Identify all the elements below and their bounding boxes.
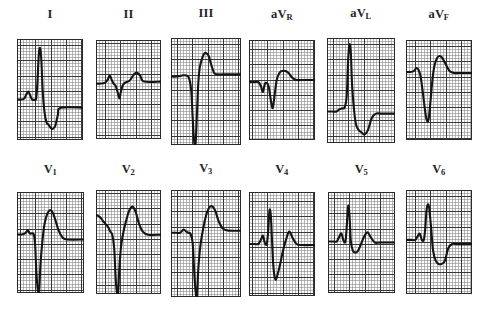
lead-label-v1: V1 — [3, 163, 98, 177]
lead-label-main: aV — [271, 7, 287, 21]
lead-label-main: V — [432, 162, 441, 176]
lead-panel-v5: V5 — [0, 0, 483, 319]
ecg-trace-i — [17, 48, 83, 129]
lead-grid-v4 — [249, 192, 315, 296]
lead-label-main: II — [123, 7, 133, 21]
lead-label-subscript: 4 — [284, 167, 288, 177]
lead-label-main: I — [47, 7, 52, 21]
lead-label-ii: II — [82, 8, 175, 21]
lead-label-i: I — [3, 8, 97, 21]
lead-label-main: V — [44, 162, 53, 176]
ecg-trace-v1 — [17, 210, 84, 293]
lead-grid-v5 — [328, 192, 395, 293]
lead-label-main: aV — [428, 7, 444, 21]
ecg-trace-v3 — [171, 206, 241, 297]
lead-grid-avf — [406, 40, 472, 140]
lead-label-main: aV — [350, 6, 366, 20]
lead-grid-i — [17, 39, 83, 140]
lead-label-subscript: 5 — [364, 167, 368, 177]
lead-label-v2: V2 — [82, 163, 175, 177]
ecg-trace-avr — [249, 71, 315, 108]
lead-label-subscript: 3 — [208, 166, 212, 176]
lead-label-subscript: F — [444, 12, 449, 22]
lead-panel-v2: V2 — [0, 0, 483, 319]
ecg-trace-ii — [96, 73, 161, 99]
lead-label-iii: III — [157, 7, 255, 20]
lead-label-avf: aVF — [392, 8, 483, 22]
lead-label-subscript: 2 — [131, 167, 135, 177]
lead-label-avl: aVL — [313, 7, 409, 21]
lead-label-subscript: L — [366, 11, 372, 21]
lead-label-avr: aVR — [235, 8, 329, 22]
lead-panel-v3: V3 — [0, 0, 483, 319]
ecg-trace-v6 — [406, 204, 472, 264]
ecg-trace-avf — [406, 56, 472, 122]
lead-grid-iii — [171, 38, 241, 145]
lead-panel-avf: aVF — [0, 0, 483, 319]
lead-grid-ii — [96, 40, 161, 139]
lead-panel-v6: V6 — [0, 0, 483, 319]
lead-grid-avl — [327, 38, 395, 143]
lead-panel-avl: aVL — [0, 0, 483, 319]
ecg-trace-v2 — [96, 207, 161, 294]
ecg-figure: IIIIIIaVRaVLaVFV1V2V3V4V5V6 — [0, 0, 483, 319]
lead-label-v6: V6 — [392, 163, 483, 177]
lead-label-v4: V4 — [235, 163, 329, 177]
ecg-trace-v4 — [249, 209, 315, 279]
lead-label-subscript: 1 — [53, 167, 57, 177]
lead-panel-v4: V4 — [0, 0, 483, 319]
lead-grid-v1 — [17, 192, 84, 293]
ecg-trace-v5 — [328, 206, 395, 253]
lead-label-subscript: 6 — [441, 167, 445, 177]
lead-panel-iii: III — [0, 0, 483, 319]
lead-label-main: V — [275, 162, 284, 176]
lead-panel-i: I — [0, 0, 483, 319]
lead-grid-avr — [249, 40, 315, 140]
lead-label-main: V — [355, 162, 364, 176]
lead-label-main: III — [198, 6, 213, 20]
lead-grid-v3 — [171, 190, 241, 297]
lead-label-v3: V3 — [157, 162, 255, 176]
lead-label-v5: V5 — [314, 163, 409, 177]
lead-label-main: V — [122, 162, 131, 176]
lead-label-subscript: R — [286, 12, 292, 22]
lead-panel-avr: aVR — [0, 0, 483, 319]
lead-grid-v2 — [96, 190, 161, 294]
lead-grid-v6 — [406, 190, 472, 294]
lead-label-main: V — [199, 161, 208, 175]
lead-panel-v1: V1 — [0, 0, 483, 319]
lead-panel-ii: II — [0, 0, 483, 319]
ecg-trace-avl — [327, 44, 395, 135]
ecg-trace-iii — [171, 53, 241, 145]
